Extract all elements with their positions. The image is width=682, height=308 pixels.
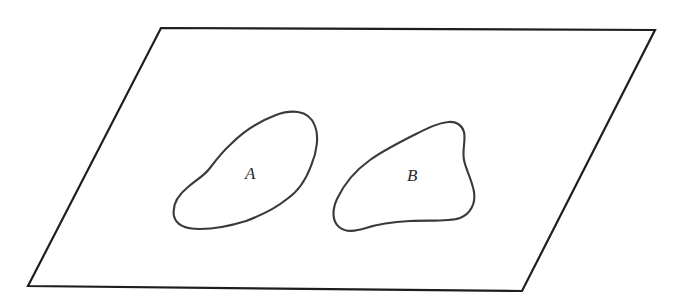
region-a-label: A [244,164,256,183]
plane-parallelogram [28,28,655,291]
diagram-canvas: A B [0,0,682,308]
region-b-label: B [407,166,418,185]
region-b-outline [333,122,474,231]
